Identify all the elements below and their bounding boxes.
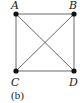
node-labels: A B C D: [10, 0, 78, 89]
node-label-a: A: [10, 0, 19, 12]
node-label-c: C: [11, 76, 20, 89]
node-label-b: B: [68, 0, 77, 12]
graph-diagram: A B C D (b): [0, 0, 80, 103]
node-a: [13, 11, 18, 16]
edges: [16, 14, 74, 71]
node-d: [71, 68, 76, 73]
node-b: [71, 11, 76, 16]
node-c: [13, 68, 18, 73]
figure-caption: (b): [11, 89, 24, 102]
node-label-d: D: [68, 76, 78, 89]
